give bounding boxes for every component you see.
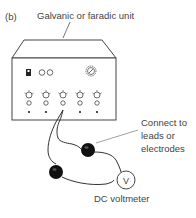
unit-top-panel (12, 40, 116, 58)
title-leader-line (63, 22, 70, 38)
unit-front-panel (12, 58, 116, 120)
upper-electrode-icon (81, 143, 95, 157)
voltmeter-symbol: V (123, 176, 129, 186)
electrodes-leader-line (96, 130, 138, 143)
galvanic-unit (12, 40, 116, 120)
lower-electrode-icon (49, 165, 63, 179)
wire-lower-to-voltmeter (62, 177, 114, 185)
circuit-diagram: V (0, 0, 196, 218)
wire-upper-to-voltmeter (94, 152, 121, 172)
